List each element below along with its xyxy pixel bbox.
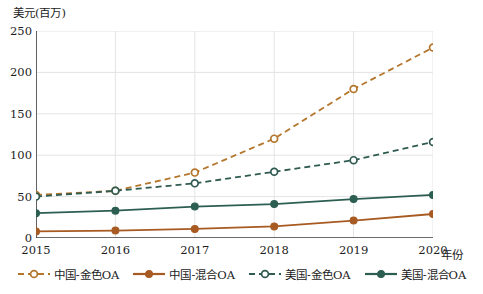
- legend-swatch-icon: [248, 268, 282, 280]
- y-axis-label: 美元(百万): [13, 4, 66, 20]
- x-tick-label: 2020: [418, 243, 447, 257]
- chart-figure: 美元(百万) 年份 050100150200250201520162017201…: [0, 0, 483, 294]
- series-line-0: [36, 48, 433, 195]
- y-tick-label: 250: [10, 24, 32, 38]
- legend-label: 中国-混合OA: [169, 266, 235, 282]
- data-point-2-5: [430, 139, 433, 146]
- data-point-3-2: [191, 203, 198, 210]
- legend-label: 美国-混合OA: [401, 266, 467, 282]
- chart-legend: 中国-金色OA中国-混合OA美国-金色OA美国-混合OA: [0, 266, 483, 282]
- data-point-1-3: [271, 223, 278, 230]
- x-tick-label: 2016: [101, 243, 130, 257]
- legend-swatch-icon: [132, 268, 166, 280]
- y-tick-label: 200: [10, 65, 32, 79]
- series-line-1: [36, 214, 433, 231]
- series-line-2: [36, 142, 433, 197]
- data-point-1-4: [350, 217, 357, 224]
- data-point-0-5: [430, 44, 433, 51]
- data-point-0-2: [191, 169, 198, 176]
- data-point-1-0: [36, 228, 39, 235]
- y-tick-label: 150: [10, 107, 32, 121]
- data-point-1-1: [112, 227, 119, 234]
- legend-swatch-icon: [364, 268, 398, 280]
- x-tick-label: 2017: [180, 243, 209, 257]
- data-point-2-3: [271, 168, 278, 175]
- data-point-2-2: [191, 180, 198, 187]
- legend-label: 美国-金色OA: [285, 266, 351, 282]
- x-tick-label: 2019: [339, 243, 368, 257]
- data-point-2-4: [350, 157, 357, 164]
- data-point-1-5: [430, 211, 433, 218]
- plot-svg: [36, 31, 433, 238]
- y-tick-label: 100: [10, 148, 32, 162]
- plot-area: 050100150200250201520162017201820192020: [36, 31, 433, 238]
- data-point-2-0: [36, 193, 39, 200]
- data-point-0-3: [271, 135, 278, 142]
- legend-item-2[interactable]: 美国-金色OA: [248, 266, 351, 282]
- series-line-3: [36, 195, 433, 213]
- data-point-3-0: [36, 210, 39, 217]
- data-point-3-3: [271, 201, 278, 208]
- data-point-3-4: [350, 196, 357, 203]
- data-point-3-5: [430, 192, 433, 199]
- x-tick-label: 2018: [260, 243, 289, 257]
- data-point-0-4: [350, 86, 357, 93]
- legend-label: 中国-金色OA: [54, 266, 120, 282]
- legend-swatch-icon: [17, 268, 51, 280]
- legend-item-3[interactable]: 美国-混合OA: [364, 266, 467, 282]
- data-point-1-2: [191, 225, 198, 232]
- legend-item-0[interactable]: 中国-金色OA: [17, 266, 120, 282]
- x-tick-label: 2015: [21, 243, 50, 257]
- data-point-2-1: [112, 187, 119, 194]
- data-point-3-1: [112, 207, 119, 214]
- legend-item-1[interactable]: 中国-混合OA: [132, 266, 235, 282]
- y-tick-label: 50: [17, 190, 32, 204]
